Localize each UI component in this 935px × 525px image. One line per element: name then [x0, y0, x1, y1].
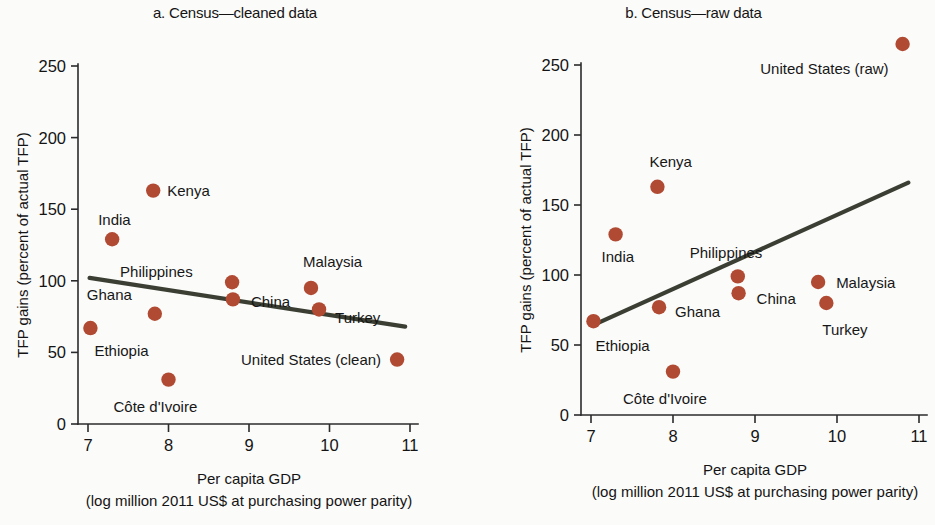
y-tick-label: 200: [38, 129, 66, 147]
data-point-turkey[interactable]: [819, 296, 833, 310]
x-tick-label: 7: [586, 427, 595, 445]
data-point-china[interactable]: [731, 286, 745, 300]
x-axis-title: Per capita GDP: [197, 470, 301, 487]
y-tick-label: 200: [541, 126, 569, 144]
x-tick-label: 9: [244, 436, 253, 454]
y-tick-label: 0: [560, 406, 569, 424]
y-tick-label: 150: [38, 200, 66, 218]
data-point-united-states-clean[interactable]: [390, 352, 404, 366]
point-label-kenya: Kenya: [649, 153, 692, 170]
y-axis-title: TFP gains (percent of actual TFP): [14, 132, 31, 357]
point-label-ghana: Ghana: [87, 286, 133, 303]
point-label-philippines: Philippines: [120, 263, 193, 280]
y-tick-label: 250: [541, 56, 569, 74]
point-label-kenya: Kenya: [167, 182, 210, 199]
point-label-india: India: [602, 248, 635, 265]
figure-container: a. Census—cleaned data 05010015020025078…: [0, 0, 935, 525]
data-point-united-states-raw[interactable]: [895, 37, 909, 51]
y-tick-label: 100: [38, 272, 66, 290]
y-axis-title: TFP gains (percent of actual TFP): [517, 127, 534, 352]
data-point-c-te-d-ivoire[interactable]: [161, 372, 175, 386]
panel-a-plot: 0501001502002507891011TFP gains (percent…: [0, 0, 470, 525]
point-label-united-states-raw: United States (raw): [760, 60, 888, 77]
data-point-philippines[interactable]: [225, 275, 239, 289]
point-label-ethiopia: Ethiopia: [595, 337, 650, 354]
x-tick-label: 11: [910, 427, 927, 445]
data-point-ethiopia[interactable]: [83, 321, 97, 335]
point-label-malaysia: Malaysia: [303, 253, 363, 270]
x-axis-subtitle: (log million 2011 US$ at purchasing powe…: [592, 483, 919, 500]
panel-census-raw: b. Census—raw data 050100150200250789101…: [470, 0, 935, 525]
point-label-india: India: [98, 211, 131, 228]
data-point-kenya[interactable]: [146, 183, 160, 197]
data-point-malaysia[interactable]: [811, 275, 825, 289]
panel-b-plot: 0501001502002507891011TFP gains (percent…: [470, 0, 935, 525]
point-label-philippines: Philippines: [690, 244, 763, 261]
x-axis-title: Per capita GDP: [703, 461, 807, 478]
data-point-ghana[interactable]: [652, 300, 666, 314]
point-label-united-states-clean: United States (clean): [241, 351, 381, 368]
x-tick-label: 11: [401, 436, 418, 454]
point-label-ghana: Ghana: [675, 303, 721, 320]
x-axis-subtitle: (log million 2011 US$ at purchasing powe…: [86, 492, 413, 509]
data-point-ghana[interactable]: [148, 307, 162, 321]
data-point-turkey[interactable]: [312, 302, 326, 316]
data-point-india[interactable]: [608, 227, 622, 241]
y-tick-label: 150: [541, 196, 569, 214]
x-tick-label: 10: [320, 436, 338, 454]
y-tick-label: 50: [48, 343, 66, 361]
point-label-china: China: [251, 293, 291, 310]
panel-census-cleaned: a. Census—cleaned data 05010015020025078…: [0, 0, 470, 525]
point-label-china: China: [757, 290, 797, 307]
data-point-china[interactable]: [226, 292, 240, 306]
point-label-turkey: Turkey: [335, 309, 381, 326]
point-label-malaysia: Malaysia: [836, 274, 896, 291]
y-tick-label: 50: [551, 336, 569, 354]
point-label-turkey: Turkey: [822, 321, 868, 338]
y-tick-label: 100: [541, 266, 569, 284]
data-point-philippines[interactable]: [731, 269, 745, 283]
y-tick-label: 0: [57, 415, 66, 433]
data-point-india[interactable]: [105, 232, 119, 246]
x-tick-label: 8: [164, 436, 173, 454]
data-point-ethiopia[interactable]: [586, 314, 600, 328]
y-tick-label: 250: [38, 57, 66, 75]
x-tick-label: 7: [83, 436, 92, 454]
data-point-malaysia[interactable]: [304, 281, 318, 295]
data-point-kenya[interactable]: [650, 180, 664, 194]
x-tick-label: 10: [828, 427, 846, 445]
point-label-c-te-d-ivoire: Côte d'Ivoire: [114, 398, 198, 415]
point-label-ethiopia: Ethiopia: [94, 342, 149, 359]
x-tick-label: 9: [750, 427, 759, 445]
data-point-c-te-d-ivoire[interactable]: [666, 364, 680, 378]
point-label-c-te-d-ivoire: Côte d'Ivoire: [623, 390, 707, 407]
x-tick-label: 8: [668, 427, 677, 445]
